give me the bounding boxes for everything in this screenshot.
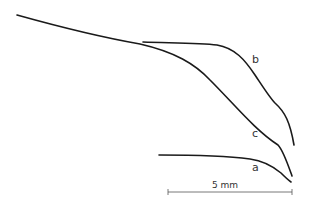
curve-b-label: b	[252, 53, 259, 66]
curve-c-label: c	[252, 127, 258, 140]
scale-bar-label: 5 mm	[212, 180, 238, 190]
curve-b	[143, 42, 294, 145]
curve-a	[159, 155, 291, 182]
profile-diagram: b c a 5 mm	[0, 0, 311, 205]
curve-c	[17, 15, 292, 176]
curve-a-label: a	[252, 161, 259, 174]
